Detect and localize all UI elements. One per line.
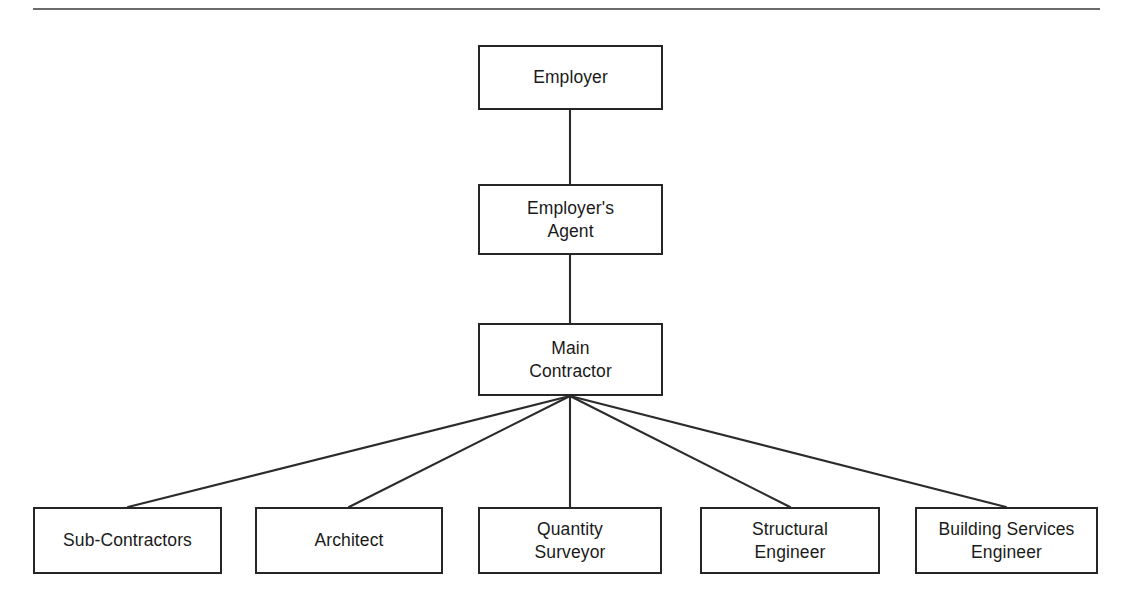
organisation-chart-page: EmployerEmployer's AgentMain ContractorS…	[0, 0, 1131, 607]
connector-main-contractor-to-structural-engineer	[570, 396, 790, 507]
node-label-sub-contractors: Sub-Contractors	[57, 529, 198, 551]
node-box-main-contractor[interactable]: Main Contractor	[478, 323, 663, 396]
node-label-employer: Employer	[527, 66, 614, 88]
connector-main-contractor-to-architect	[349, 396, 570, 507]
node-box-employers-agent[interactable]: Employer's Agent	[478, 184, 663, 255]
node-box-sub-contractors[interactable]: Sub-Contractors	[33, 507, 222, 574]
node-label-building-services-engineer: Building Services Engineer	[933, 518, 1081, 563]
node-box-quantity-surveyor[interactable]: Quantity Surveyor	[478, 507, 662, 574]
node-box-architect[interactable]: Architect	[255, 507, 443, 574]
node-label-architect: Architect	[309, 529, 390, 551]
node-box-building-services-engineer[interactable]: Building Services Engineer	[915, 507, 1098, 574]
connector-main-contractor-to-sub-contractors	[128, 396, 570, 507]
node-label-main-contractor: Main Contractor	[523, 337, 618, 382]
node-label-structural-engineer: Structural Engineer	[746, 518, 834, 563]
connector-group	[128, 110, 1006, 507]
connector-main-contractor-to-building-services-engineer	[570, 396, 1006, 507]
node-label-quantity-surveyor: Quantity Surveyor	[529, 518, 612, 563]
node-box-employer[interactable]: Employer	[478, 45, 663, 110]
node-box-structural-engineer[interactable]: Structural Engineer	[700, 507, 880, 574]
node-label-employers-agent: Employer's Agent	[521, 197, 620, 242]
